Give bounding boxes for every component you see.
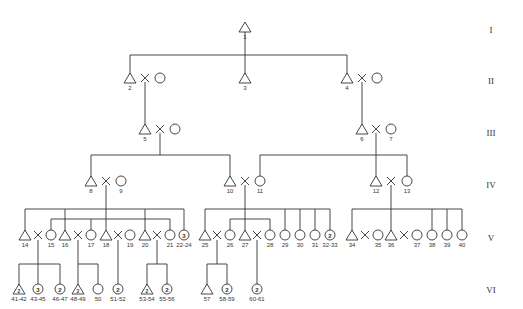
- individual-32-33: 2 32-33: [322, 230, 338, 248]
- svg-text:40: 40: [459, 242, 466, 248]
- svg-text:12: 12: [373, 188, 380, 194]
- marriage-mark: [102, 177, 110, 185]
- marriage-mark: [34, 231, 42, 239]
- female-icon: [295, 230, 305, 240]
- female-icon: [93, 284, 103, 294]
- female-icon: [457, 230, 467, 240]
- individual-18: 18: [100, 230, 112, 248]
- marriage-mark: [361, 231, 369, 239]
- female-icon: [225, 230, 235, 240]
- individual-27: 27: [239, 230, 251, 248]
- svg-text:17: 17: [88, 242, 95, 248]
- svg-text:39: 39: [444, 242, 451, 248]
- marriage-mark: [114, 231, 122, 239]
- male-icon: [100, 230, 112, 240]
- svg-text:58-59: 58-59: [219, 296, 235, 302]
- svg-text:41-42: 41-42: [11, 296, 27, 302]
- generation-label-5: V: [488, 233, 495, 243]
- individual-14: 14: [19, 230, 31, 248]
- svg-text:18: 18: [103, 242, 110, 248]
- individual-15: 15: [46, 230, 56, 248]
- male-icon: [341, 73, 353, 83]
- male-icon: [85, 176, 97, 186]
- individual-7: 7: [386, 124, 396, 142]
- male-icon: [139, 230, 151, 240]
- svg-text:1: 1: [243, 34, 247, 40]
- female-icon: [86, 230, 96, 240]
- female-icon: [255, 176, 265, 186]
- generation-label-2: II: [488, 76, 494, 86]
- svg-text:35: 35: [375, 242, 382, 248]
- svg-text:51-52: 51-52: [110, 296, 126, 302]
- svg-text:22-24: 22-24: [176, 242, 192, 248]
- svg-text:26: 26: [227, 242, 234, 248]
- individual-1: 1: [239, 22, 251, 40]
- marriage-mark: [387, 177, 395, 185]
- female-icon: [442, 230, 452, 240]
- individual-12: 12: [370, 176, 382, 194]
- svg-text:3: 3: [243, 85, 247, 91]
- marriage-mark: [253, 231, 261, 239]
- male-icon: [224, 176, 236, 186]
- svg-text:29: 29: [282, 242, 289, 248]
- individual-4: 4: [341, 73, 353, 91]
- svg-text:6: 6: [360, 136, 364, 142]
- individual-36: 36: [385, 230, 397, 248]
- pedigree-diagram: I II III IV V VI: [0, 0, 523, 309]
- marriage-mark: [156, 125, 164, 133]
- female-icon: [427, 230, 437, 240]
- individual-11: 11: [255, 176, 265, 194]
- individual-50: 50: [93, 284, 103, 302]
- marriage-mark: [241, 177, 249, 185]
- male-icon: [239, 22, 251, 32]
- individual-28: 28: [265, 230, 275, 248]
- svg-text:37: 37: [414, 242, 421, 248]
- generation-labels: I II III IV V VI: [486, 25, 496, 295]
- male-icon: [385, 230, 397, 240]
- female-icon: [280, 230, 290, 240]
- female-icon: [116, 176, 126, 186]
- svg-text:55-56: 55-56: [159, 296, 175, 302]
- svg-text:4: 4: [345, 85, 349, 91]
- svg-text:9: 9: [119, 188, 123, 194]
- individual-53-54: 2 53-54: [139, 284, 155, 302]
- svg-text:31: 31: [312, 242, 319, 248]
- svg-text:5: 5: [143, 136, 147, 142]
- individual-13: 13: [402, 176, 412, 194]
- svg-text:53-54: 53-54: [139, 296, 155, 302]
- female-icon: [265, 230, 275, 240]
- female-icon-spouse-of-2: [155, 73, 165, 83]
- svg-text:15: 15: [48, 242, 55, 248]
- marriage-mark: [400, 231, 408, 239]
- individual-51-52: 2 51-52: [110, 284, 126, 302]
- connector-lines: [19, 31, 462, 286]
- male-icon: [19, 230, 31, 240]
- individual-57: 57: [201, 284, 213, 302]
- individual-43-45: 3 43-45: [30, 284, 46, 302]
- svg-text:2: 2: [146, 288, 149, 294]
- svg-text:20: 20: [142, 242, 149, 248]
- svg-text:32-33: 32-33: [322, 242, 338, 248]
- individual-9: 9: [116, 176, 126, 194]
- individual-31: 31: [310, 230, 320, 248]
- female-icon: [46, 230, 56, 240]
- individual-60-61: 2 60-61: [249, 284, 265, 302]
- individual-20: 20: [139, 230, 151, 248]
- svg-text:43-45: 43-45: [30, 296, 46, 302]
- marriage-mark: [358, 74, 366, 82]
- svg-text:8: 8: [89, 188, 93, 194]
- female-icon-spouse-of-4: [372, 73, 382, 83]
- male-icon: [370, 176, 382, 186]
- male-icon: [199, 230, 211, 240]
- male-icon: [239, 73, 251, 83]
- individual-58-59: 2 58-59: [219, 284, 235, 302]
- male-icon: [59, 230, 71, 240]
- individual-22-24: 3 22-24: [176, 230, 192, 248]
- individual-30: 30: [295, 230, 305, 248]
- svg-text:46-47: 46-47: [52, 296, 68, 302]
- individual-3: 3: [239, 73, 251, 91]
- individual-37: 37: [412, 230, 422, 248]
- svg-text:27: 27: [242, 242, 249, 248]
- individual-10: 10: [224, 176, 236, 194]
- individual-2: 2: [124, 73, 136, 91]
